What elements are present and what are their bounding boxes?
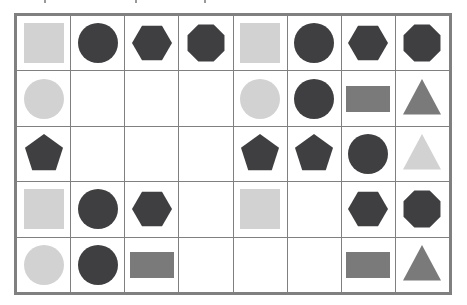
- grid-cell-empty[interactable]: [179, 182, 233, 237]
- pentagon-shape: [240, 134, 280, 174]
- grid-cell-light-gray-circle[interactable]: [233, 71, 287, 126]
- square-glyph: [24, 189, 64, 229]
- grid-cell-empty[interactable]: [71, 126, 125, 181]
- shape-grid-page: [0, 0, 467, 305]
- grid-row: [17, 71, 450, 126]
- grid-cell-light-gray-circle[interactable]: [17, 237, 71, 292]
- grid-cell-dark-circle[interactable]: [341, 126, 395, 181]
- grid-cell-empty[interactable]: [179, 237, 233, 292]
- grid-row: [17, 126, 450, 181]
- hexagon-shape: [348, 189, 388, 229]
- circle-glyph: [78, 23, 118, 63]
- rectangle-glyph: [346, 252, 390, 278]
- circle-glyph: [78, 245, 118, 285]
- cell-content: [342, 71, 395, 125]
- cell-content: [71, 182, 124, 236]
- grid-cell-empty[interactable]: [287, 237, 341, 292]
- cell-content: [234, 71, 287, 125]
- cell-content: [179, 16, 232, 70]
- grid-cell-medium-gray-rectangle[interactable]: [341, 71, 395, 126]
- shape-grid-container: [14, 13, 452, 295]
- grid-cell-empty[interactable]: [233, 237, 287, 292]
- grid-cell-dark-hexagon[interactable]: [125, 182, 179, 237]
- grid-cell-dark-pentagon[interactable]: [287, 126, 341, 181]
- cell-content: [288, 127, 341, 181]
- grid-cell-dark-circle[interactable]: [287, 16, 341, 71]
- grid-cell-dark-octagon[interactable]: [179, 16, 233, 71]
- cell-content: [288, 16, 341, 70]
- hexagon-glyph: [348, 192, 388, 227]
- grid-cell-empty[interactable]: [71, 71, 125, 126]
- hexagon-shape: [348, 23, 388, 63]
- grid-cell-dark-pentagon[interactable]: [17, 126, 71, 181]
- hexagon-glyph: [132, 192, 172, 227]
- grid-cell-light-gray-circle[interactable]: [17, 71, 71, 126]
- grid-cell-empty[interactable]: [179, 126, 233, 181]
- cell-content: [17, 71, 70, 125]
- octagon-shape: [186, 23, 226, 63]
- cell-content: [179, 127, 232, 181]
- grid-cell-light-gray-square[interactable]: [17, 16, 71, 71]
- grid-cell-light-gray-square[interactable]: [233, 182, 287, 237]
- grid-cell-medium-gray-triangle[interactable]: [395, 71, 449, 126]
- cell-content: [125, 71, 178, 125]
- grid-cell-dark-circle[interactable]: [287, 71, 341, 126]
- circle-shape: [348, 134, 388, 174]
- cell-content: [71, 71, 124, 125]
- grid-cell-dark-hexagon[interactable]: [341, 16, 395, 71]
- grid-cell-empty[interactable]: [125, 71, 179, 126]
- grid-cell-medium-gray-rectangle[interactable]: [341, 237, 395, 292]
- cell-content: [396, 238, 449, 292]
- grid-cell-light-gray-triangle[interactable]: [395, 126, 449, 181]
- octagon-glyph: [404, 191, 441, 228]
- clipped-text-artifacts: [0, 0, 467, 8]
- octagon-shape: [402, 23, 442, 63]
- pentagon-shape: [294, 134, 334, 174]
- grid-cell-dark-hexagon[interactable]: [341, 182, 395, 237]
- grid-cell-empty[interactable]: [125, 126, 179, 181]
- circle-shape: [78, 23, 118, 63]
- cell-content: [396, 71, 449, 125]
- cell-content: [125, 16, 178, 70]
- cell-content: [234, 16, 287, 70]
- artifact-mark: [44, 0, 46, 3]
- rectangle-shape: [348, 79, 388, 119]
- grid-cell-dark-pentagon[interactable]: [233, 126, 287, 181]
- cell-content: [71, 16, 124, 70]
- triangle-shape: [402, 79, 442, 119]
- cell-content: [17, 182, 70, 236]
- grid-cell-dark-circle[interactable]: [71, 16, 125, 71]
- hexagon-shape: [132, 23, 172, 63]
- grid-cell-light-gray-square[interactable]: [17, 182, 71, 237]
- triangle-glyph: [403, 245, 441, 281]
- square-shape: [240, 23, 280, 63]
- grid-cell-dark-circle[interactable]: [71, 237, 125, 292]
- cell-content: [179, 182, 232, 236]
- pentagon-glyph: [25, 134, 63, 170]
- octagon-glyph: [404, 25, 441, 62]
- grid-cell-dark-circle[interactable]: [71, 182, 125, 237]
- square-shape: [240, 189, 280, 229]
- cell-content: [396, 182, 449, 236]
- cell-content: [342, 238, 395, 292]
- hexagon-glyph: [348, 26, 388, 61]
- grid-cell-medium-gray-triangle[interactable]: [395, 237, 449, 292]
- square-glyph: [240, 189, 280, 229]
- cell-content: [17, 16, 70, 70]
- grid-cell-dark-octagon[interactable]: [395, 16, 449, 71]
- octagon-glyph: [187, 25, 224, 62]
- grid-cell-dark-octagon[interactable]: [395, 182, 449, 237]
- cell-content: [396, 16, 449, 70]
- circle-glyph: [24, 245, 64, 285]
- triangle-glyph: [403, 134, 441, 170]
- square-glyph: [24, 23, 64, 63]
- grid-cell-empty[interactable]: [287, 182, 341, 237]
- cell-content: [342, 127, 395, 181]
- grid-cell-medium-gray-rectangle[interactable]: [125, 237, 179, 292]
- grid-cell-light-gray-square[interactable]: [233, 16, 287, 71]
- grid-row: [17, 16, 450, 71]
- grid-cell-empty[interactable]: [179, 71, 233, 126]
- triangle-shape: [402, 134, 442, 174]
- grid-cell-dark-hexagon[interactable]: [125, 16, 179, 71]
- cell-content: [17, 127, 70, 181]
